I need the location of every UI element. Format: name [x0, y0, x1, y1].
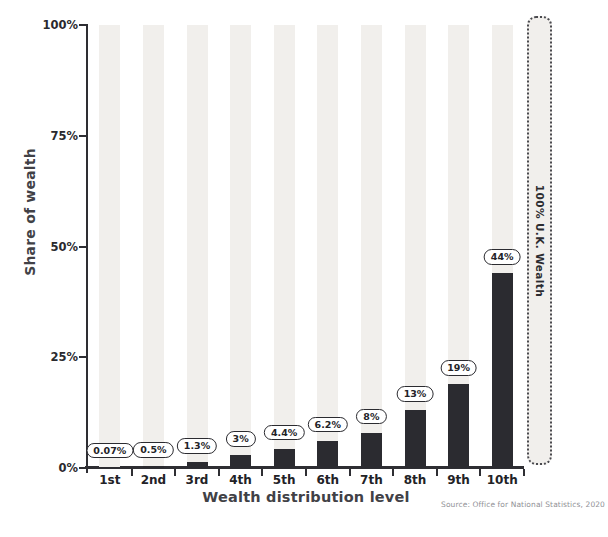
- category-label: 5th: [273, 473, 296, 487]
- y-axis-tick: [79, 24, 86, 26]
- uk-wealth-annotation-box: 100% U.K. Wealth: [527, 16, 552, 465]
- category-label: 9th: [447, 473, 470, 487]
- y-axis-tick-label: 50%: [28, 240, 78, 254]
- value-bar: [230, 455, 251, 468]
- y-axis-tick-label: 0%: [28, 461, 78, 475]
- x-axis-tick: [479, 469, 481, 476]
- x-axis-tick: [131, 469, 133, 476]
- x-axis-tick: [349, 469, 351, 476]
- y-axis-tick: [79, 246, 86, 248]
- value-label-pill: 8%: [356, 409, 386, 425]
- x-axis-tick: [523, 469, 525, 476]
- background-track-bar: [99, 25, 120, 468]
- value-label-pill: 3%: [226, 431, 256, 447]
- background-track-bar: [361, 25, 382, 468]
- category-label: 7th: [360, 473, 383, 487]
- category-label: 10th: [487, 473, 518, 487]
- value-bar: [187, 462, 208, 468]
- background-track-bar: [187, 25, 208, 468]
- source-credit: Source: Office for National Statistics, …: [441, 500, 605, 509]
- value-bar: [448, 384, 469, 468]
- value-label-pill: 4.4%: [264, 425, 304, 441]
- category-label: 1st: [99, 473, 120, 487]
- wealth-distribution-chart: Share of wealth 100% U.K. Wealth Wealth …: [0, 0, 608, 537]
- category-label: 6th: [316, 473, 339, 487]
- value-label-pill: 6.2%: [308, 417, 348, 433]
- category-label: 2nd: [141, 473, 166, 487]
- background-track-bar: [230, 25, 251, 468]
- value-bar: [274, 449, 295, 468]
- y-axis-tick-label: 100%: [28, 18, 78, 32]
- value-bar: [361, 433, 382, 468]
- y-axis-tick-label: 75%: [28, 129, 78, 143]
- y-axis-tick: [79, 467, 86, 469]
- x-axis-tick: [174, 469, 176, 476]
- y-axis-title: Share of wealth: [22, 148, 38, 276]
- value-bar: [99, 467, 120, 469]
- value-label-pill: 0.5%: [133, 442, 173, 458]
- y-axis-line: [86, 24, 88, 473]
- value-bar: [317, 441, 338, 468]
- x-axis-tick: [392, 469, 394, 476]
- background-track-bar: [274, 25, 295, 468]
- x-axis-tick: [218, 469, 220, 476]
- background-track-bar: [143, 25, 164, 468]
- y-axis-tick: [79, 356, 86, 358]
- category-label: 8th: [404, 473, 427, 487]
- value-bar: [405, 410, 426, 468]
- value-bar: [143, 466, 164, 468]
- value-label-pill: 0.07%: [86, 443, 133, 459]
- y-axis-tick-label: 25%: [28, 350, 78, 364]
- background-track-bar: [317, 25, 338, 468]
- y-axis-tick: [79, 135, 86, 137]
- value-label-pill: 44%: [484, 249, 521, 265]
- x-axis-tick: [261, 469, 263, 476]
- x-axis-tick: [305, 469, 307, 476]
- uk-wealth-annotation-label: 100% U.K. Wealth: [534, 184, 546, 296]
- category-label: 3rd: [186, 473, 209, 487]
- category-label: 4th: [229, 473, 252, 487]
- value-label-pill: 1.3%: [177, 438, 217, 454]
- value-bar: [492, 273, 513, 468]
- x-axis-tick: [436, 469, 438, 476]
- value-label-pill: 13%: [397, 386, 434, 402]
- value-label-pill: 19%: [440, 360, 477, 376]
